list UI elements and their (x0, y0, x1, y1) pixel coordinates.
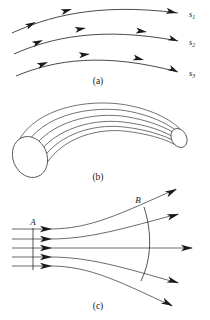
direction-arrow-icon (161, 298, 175, 309)
figure-container: s1 s2 s3 (a) (b) (0, 0, 210, 320)
stream-label-s3: s3 (189, 68, 195, 79)
panel-a-streamlines: s1 s2 s3 (a) (12, 6, 195, 87)
streamline-s2 (14, 34, 178, 54)
flowline-top (12, 189, 176, 229)
figure-canvas: s1 s2 s3 (a) (b) (0, 0, 210, 320)
flowline-bottom (12, 266, 172, 306)
section-label-b: B (135, 195, 141, 205)
stream-label-s2: s2 (189, 37, 195, 48)
direction-arrow-icon (79, 51, 91, 58)
direction-arrow-icon (37, 59, 49, 69)
direction-arrow-icon (167, 276, 180, 286)
tube-inner-edge (44, 131, 177, 168)
panel-caption-c: (c) (93, 301, 104, 312)
panel-b-stream-tube: (b) (6, 103, 190, 183)
arrowheads-s1 (25, 6, 178, 29)
direction-arrow-icon (165, 186, 179, 197)
section-b-arc (141, 207, 150, 281)
direction-arrow-icon (75, 25, 87, 33)
direction-arrow-icon (61, 6, 73, 15)
panel-caption-b: (b) (92, 172, 103, 183)
exit-arrowheads (161, 186, 193, 309)
streamline-s3 (16, 60, 178, 76)
tube-left-end-cap (6, 131, 53, 183)
section-label-a: A (29, 217, 36, 227)
direction-arrow-icon (168, 65, 179, 74)
flowline-lower-mid (12, 257, 178, 283)
throat-arrowheads (40, 226, 52, 269)
streamline-s1 (12, 9, 178, 33)
arrowheads-s2 (32, 25, 179, 47)
direction-arrow-icon (25, 19, 38, 29)
direction-arrow-icon (136, 27, 148, 34)
tube-right-end-cap (168, 126, 191, 151)
arrowheads-s3 (37, 51, 180, 75)
panel-c-flow-sections: A B (c) (12, 186, 193, 312)
direction-arrow-icon (32, 37, 44, 47)
flowline-upper-mid (12, 214, 178, 239)
stream-label-s1: s1 (189, 9, 195, 20)
tube-internal-line (34, 121, 179, 161)
direction-arrow-icon (133, 54, 145, 62)
panel-caption-a: (a) (93, 76, 104, 87)
tube-internal-line (39, 126, 178, 165)
direction-arrow-icon (167, 211, 180, 220)
